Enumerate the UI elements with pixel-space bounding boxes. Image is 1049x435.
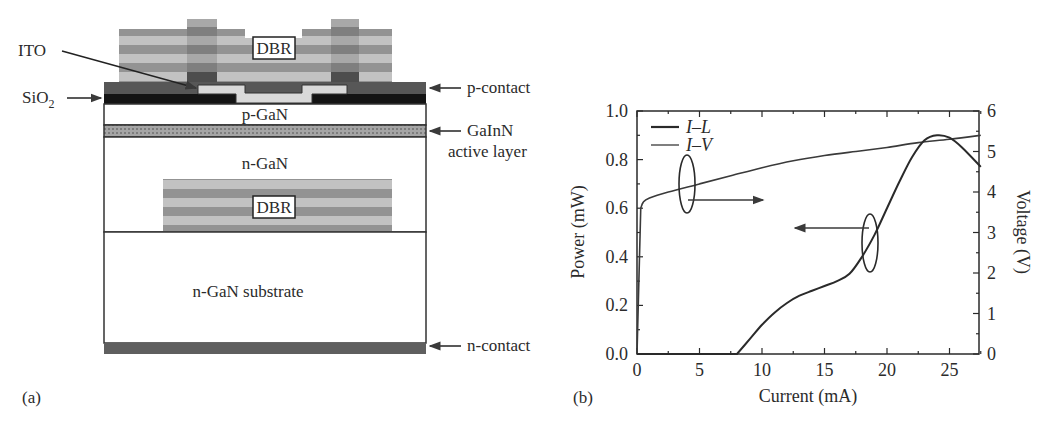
iv-curve [637,135,981,354]
active-layer-callout-1: GaInN [467,121,513,140]
legend: I–L I–V [651,117,714,155]
y-left-tick-label: 0.8 [606,150,629,170]
x-tick-label: 0 [633,360,642,380]
y-left-tick-label: 0.4 [606,247,629,267]
y-right-tick-label: 1 [987,304,996,324]
substrate-label: n-GaN substrate [193,282,304,301]
n-gan-label: n-GaN [242,154,288,173]
y-right-axis-ticks [973,111,979,354]
chart: 0 5 10 15 20 25 0.0 0.2 0.4 0.6 0.8 1.0 … [568,101,1033,407]
panel-b-label: (b) [573,388,593,407]
bottom-dbr-label: DBR [257,198,293,217]
top-dbr: DBR [119,19,392,82]
legend-il-label: I–L [685,117,711,137]
x-tick-label: 10 [753,360,771,380]
y-right-tick-label: 6 [987,101,996,121]
iv-ellipse-annotation [679,155,695,213]
top-dbr-label: DBR [257,39,293,58]
y-right-tick-label: 2 [987,263,996,283]
y-left-tick-label: 0.6 [606,198,629,218]
n-contact-callout: n-contact [467,336,531,355]
p-contact-callout: p-contact [467,78,531,97]
device-diagram: DBR p-GaN n-GaN DBR n-GaN substrate [104,19,426,354]
y-left-axis-title: Power (mW) [568,185,589,278]
active-layer [104,125,426,137]
p-contact-layer [104,82,426,94]
y-left-tick-label: 1.0 [606,101,629,121]
il-curve [637,135,981,354]
p-gan-label: p-GaN [242,105,288,124]
x-axis-title: Current (mA) [759,386,857,407]
y-left-tick-label: 0.2 [606,295,629,315]
y-right-tick-label: 4 [987,182,996,202]
sio2-callout: SiO2 [22,88,54,111]
n-contact-layer [104,343,426,354]
x-tick-label: 25 [941,360,959,380]
active-layer-callout-2: active layer [448,142,527,161]
y-left-tick-label: 0.0 [606,344,629,364]
x-tick-label: 20 [878,360,896,380]
x-tick-label: 5 [695,360,704,380]
panel-a-label: (a) [22,388,41,407]
ito-callout: ITO [18,41,46,60]
y-right-tick-label: 3 [987,223,996,243]
y-right-axis-title: Voltage (V) [1012,190,1033,274]
legend-iv-label: I–V [685,135,714,155]
x-tick-label: 15 [816,360,834,380]
figure: DBR p-GaN n-GaN DBR n-GaN substrate ITO … [0,0,1049,435]
y-right-tick-label: 0 [987,344,996,364]
y-right-tick-label: 5 [987,142,996,162]
